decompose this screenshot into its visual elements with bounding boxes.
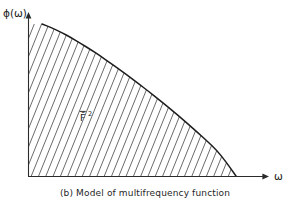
hatch-line [39,0,196,176]
hatch-line [192,0,290,176]
hatch-line [272,0,290,176]
hatch-line [0,0,21,176]
hatch-line [0,0,43,176]
hatch-line [53,0,210,176]
hatch-line [163,0,290,176]
hatch-line [112,0,269,176]
y-axis-label: ϕ(ω) [3,7,27,19]
hatch-line [90,0,247,176]
hatch-line [126,0,283,176]
x-axis-label: ω [274,170,283,182]
hatch-line [2,0,159,176]
hatch-line [155,0,290,176]
hatch-line [0,0,138,176]
hatch-line [0,0,13,176]
hatch-line [185,0,290,176]
figure-caption: (b) Model of multifrequency function [0,188,290,198]
hatch-line [104,0,261,176]
hatch-line [207,0,291,176]
hatch-line [0,0,28,176]
hatch-line [0,0,50,176]
hatch-line [250,0,290,176]
hatch-line [0,0,79,176]
phi-omega-curve [42,24,236,176]
hatch-line [0,0,6,176]
hatch-line [68,0,225,176]
hatch-line [177,0,290,176]
x-axis-arrowhead [262,174,269,180]
hatch-line [258,0,290,176]
hatch-line [265,0,290,176]
hatch-line [0,0,116,176]
hatch-line [0,0,108,176]
multifrequency-model-plot: ϕ(ω) ω F̄ 2 [0,0,290,211]
hatch-line [221,0,290,176]
region-label-base: F̄ [80,112,85,123]
region-label-exponent: 2 [88,110,92,118]
hatch-line [243,0,290,176]
hatch-line [199,0,290,176]
hatch-line [0,0,145,176]
hatch-line [31,0,188,176]
hatch-line [0,0,65,176]
hatch-line [0,0,72,176]
hatch-line [61,0,218,176]
hatch-line [134,0,291,176]
hatch-line [97,0,254,176]
hatch-line [75,0,232,176]
hatch-line [228,0,290,176]
hatch-line [0,0,86,176]
hatch-line [148,0,290,176]
hatch-line [214,0,290,176]
hatch-line [280,0,291,176]
hatch-line [46,0,203,176]
hatch-line [0,0,123,176]
hatch-line [287,0,290,176]
hatch-line [236,0,290,176]
hatch-line [119,0,276,176]
figure-container: ϕ(ω) ω F̄ 2 (b) Model of multifrequency … [0,0,290,211]
